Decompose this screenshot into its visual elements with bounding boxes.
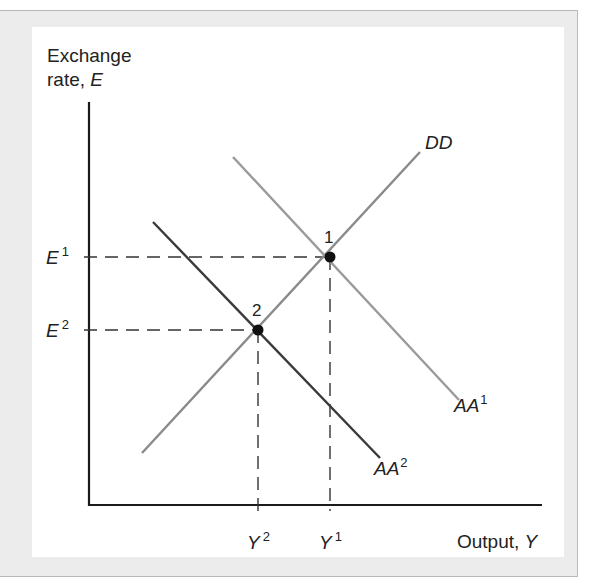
aa1-label: AA1 (453, 392, 488, 416)
e1-tick-label: E1 (46, 244, 69, 268)
aa2-curve (153, 222, 380, 458)
e2-tick-label: E2 (46, 317, 69, 341)
aa2-label: AA2 (373, 455, 408, 479)
aa1-curve (233, 157, 459, 400)
equilibrium-point-2 (253, 325, 264, 336)
y1-tick-label: Y1 (319, 529, 342, 553)
point-2-label: 2 (252, 301, 261, 320)
y-axis-title-line1: Exchange (47, 45, 132, 66)
x-axis-title: Output, Y (457, 531, 539, 552)
equilibrium-point-1 (325, 252, 336, 263)
point-1-label: 1 (324, 228, 333, 247)
y2-tick-label: Y2 (247, 529, 270, 553)
dd-curve (142, 152, 420, 453)
dd-label: DD (425, 132, 453, 153)
diagram: 1 2 Exchange rate, E Output, Y E1 E2 Y2 … (0, 0, 600, 584)
y-axis-title-line2: rate, E (47, 69, 103, 90)
